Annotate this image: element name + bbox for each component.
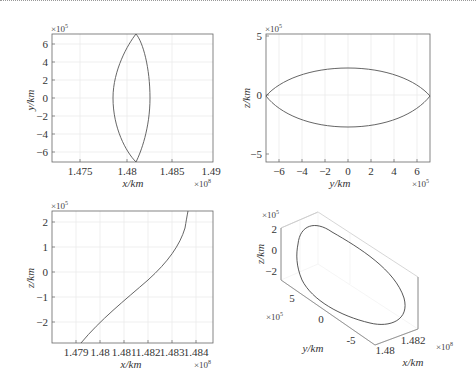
xtick-label: 1.49 [201,165,221,177]
ytick-label: 0 [43,266,49,278]
xtick-label: 6 [414,165,420,177]
ytick-label: −1 [36,291,48,303]
y-multiplier: ×105 [265,23,282,34]
xtick-label: −6 [273,165,285,177]
plot-top-left: 6 4 2 0 −2 −4 −6 1.475 1.48 1.485 1.49 ×… [24,23,221,189]
ytick-label: −2 [36,316,48,328]
x-axis-label: x/km [402,356,424,368]
xtick-label: 1.48 [375,344,395,356]
plot-bottom-left: 2 1 0 −1 −2 1.479 1.48 1.481 1.482 1.483… [24,200,213,370]
x-axis-label: y/km [329,177,351,189]
grid-lines [52,34,213,162]
xtick-label: 0 [345,165,351,177]
ytick-label: 6 [43,38,49,50]
xtick-label: 1.484 [184,346,209,358]
ytick-label: −2 [36,110,48,122]
xtick-label: 1.475 [68,165,93,177]
x-multiplier: ×105 [412,178,429,189]
xtick-label: 1.483 [160,346,185,358]
x-axis-label: x/km [120,358,142,370]
ytick-label: −5 [250,148,262,160]
grid-lines [52,211,213,343]
ytick-label: 5 [257,30,263,42]
ytick-label: -5 [346,334,356,346]
ytick-label: −6 [36,146,48,158]
x-multiplier: ×108 [194,359,211,370]
ytick-label: 0 [257,89,263,101]
y-axis-label: z/km [24,268,36,289]
ytick-label: 2 [43,74,49,86]
ytick-label: 1 [43,241,49,253]
ytick-label: 0 [318,313,324,325]
xtick-label: 1.482 [401,334,426,346]
x-axis-label: x/km [122,177,144,189]
grid-lines [266,34,430,162]
orbit-curve-3d [297,226,405,325]
xtick-label: 1.481 [112,346,137,358]
y-axis-label: z/km [240,88,252,109]
xtick-label: 1.482 [136,346,161,358]
z-multiplier: ×105 [262,209,279,220]
ytick-label: 2 [43,216,49,228]
xtick-label: −4 [296,165,308,177]
ztick-label: −2 [265,265,277,277]
xtick-label: 1.479 [64,346,89,358]
x-multiplier: ×108 [436,341,453,352]
ytick-label: 0 [43,92,49,104]
z-axis-label: z/km [254,244,266,265]
y-multiplier: ×105 [51,23,68,34]
y-multiplier: ×105 [51,200,68,211]
x-multiplier: ×108 [194,178,211,189]
ytick-label: 4 [43,56,49,68]
ztick-label: 2 [272,223,278,235]
plot-top-right: 5 0 −5 −6 −4 −2 0 2 4 6 ×105 ×105 y/km z… [240,23,430,189]
plot-bottom-right-3d: 2 0 −2 5 0 -5 1.48 1.482 ×105 ×105 ×108 … [254,209,453,368]
grid-lines [281,212,418,329]
xtick-label: 1.48 [117,165,137,177]
y-multiplier: ×105 [266,311,283,322]
y-axis-label: y/km [302,342,324,354]
figure-canvas: 6 4 2 0 −2 −4 −6 1.475 1.48 1.485 1.49 ×… [0,0,476,388]
ytick-label: 5 [289,292,295,304]
ytick-label: −4 [36,128,48,140]
xtick-label: 1.485 [160,165,185,177]
xtick-label: 4 [391,165,397,177]
xtick-label: 1.48 [90,346,110,358]
xtick-label: −2 [319,165,331,177]
ztick-label: 0 [272,244,278,256]
y-axis-label: y/km [24,90,36,112]
xtick-label: 2 [368,165,374,177]
box-edges [281,228,418,345]
